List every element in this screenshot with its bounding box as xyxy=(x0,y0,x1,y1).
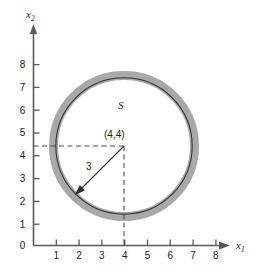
x-axis-label: x1 xyxy=(236,239,245,254)
x-axis-ticks xyxy=(56,240,216,246)
x-axis-label-subscript: 1 xyxy=(241,245,245,254)
x-tick-label-7: 7 xyxy=(187,250,200,261)
y-tick-label-6: 6 xyxy=(16,105,29,116)
y-tick-label-4: 4 xyxy=(16,150,29,161)
x-tick-label-4: 4 xyxy=(118,250,131,261)
y-tick-label-1: 1 xyxy=(16,219,29,230)
region-label-s: S xyxy=(118,99,124,111)
y-tick-label-0: 0 xyxy=(16,240,29,251)
radius-length-label: 3 xyxy=(86,161,92,172)
y-axis-label-subscript: 2 xyxy=(31,14,35,23)
x-tick-label-8: 8 xyxy=(209,250,222,261)
x-tick-label-1: 1 xyxy=(50,250,63,261)
x-tick-label-6: 6 xyxy=(164,250,177,261)
circle-region-diagram: 0 1 2 3 4 5 6 7 8 1 2 3 4 5 6 7 8 x2 x1 … xyxy=(0,0,261,272)
y-axis-ticks xyxy=(34,65,40,225)
y-axis-arrowhead xyxy=(30,24,37,34)
x-tick-label-3: 3 xyxy=(95,250,108,261)
y-axis-label: x2 xyxy=(26,8,35,23)
plot-canvas xyxy=(0,0,261,272)
y-tick-label-3: 3 xyxy=(16,173,29,184)
center-point-label: (4,4) xyxy=(104,129,125,140)
y-tick-label-7: 7 xyxy=(16,82,29,93)
x-axis-arrowhead xyxy=(219,242,230,250)
y-tick-label-5: 5 xyxy=(16,127,29,138)
x-tick-label-5: 5 xyxy=(141,250,154,261)
radius-arrow xyxy=(75,146,125,196)
y-tick-label-2: 2 xyxy=(16,196,29,207)
y-tick-label-8: 8 xyxy=(16,59,29,70)
x-tick-label-2: 2 xyxy=(73,250,86,261)
